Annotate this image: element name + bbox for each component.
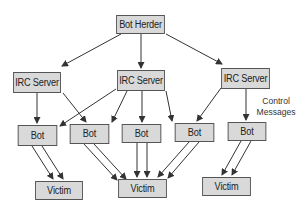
irc-server-node-3: IRC Server (221, 68, 270, 89)
arrow-bot1-victim1-b (42, 146, 63, 179)
victim-node-2: Victim (118, 179, 167, 198)
arrow-bot2-victim2-a (84, 144, 117, 180)
victim-node-3: Victim (202, 177, 251, 196)
bot-node-3: Bot (122, 124, 162, 143)
arrow-irc2-bot1 (60, 89, 116, 126)
arrow-irc1-bot2 (63, 93, 86, 122)
bot-node-5: Bot (228, 122, 267, 141)
arrow-bot2-victim2-b (94, 144, 126, 179)
bot-node-4: Bot (175, 123, 215, 142)
arrow-herder-irc1 (62, 34, 121, 66)
arrow-bot5-victim3-a (222, 141, 241, 175)
control-messages-label: Control Messages (254, 95, 297, 117)
control-messages-line1: Control (254, 95, 297, 106)
arrow-irc2-bot4 (166, 91, 172, 121)
bot-node-1: Bot (18, 125, 58, 146)
arrow-bot1-victim1-a (32, 146, 53, 179)
arrow-irc2-bot2 (112, 91, 127, 122)
irc-server-node-1: IRC Server (13, 72, 61, 93)
control-messages-line2: Messages (254, 106, 297, 117)
arrow-herder-irc3 (166, 34, 222, 64)
victim-node-1: Victim (35, 181, 83, 200)
bot-herder-node: Bot Herder (116, 15, 165, 34)
arrow-irc3-bot4 (197, 88, 221, 121)
bot-node-2: Bot (70, 124, 110, 144)
irc-server-node-2: IRC Server (117, 70, 165, 91)
arrow-bot5-victim3-b (232, 141, 251, 175)
